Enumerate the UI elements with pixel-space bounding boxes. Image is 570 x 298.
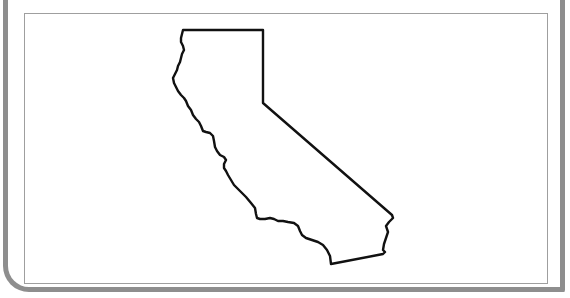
california-outline bbox=[173, 30, 393, 264]
california-map bbox=[0, 0, 570, 298]
